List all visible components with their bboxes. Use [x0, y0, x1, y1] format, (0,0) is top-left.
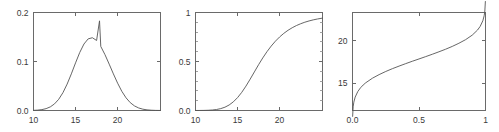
pdf-y-ticks [34, 13, 161, 111]
y-tick-label: 0.5 [179, 57, 191, 67]
x-tick-label: 10 [191, 115, 201, 125]
cdf-y-ticks [196, 13, 323, 111]
panel-cdf: 101520 0.00.51 [166, 0, 332, 132]
quantile-y-ticks [353, 41, 486, 84]
y-tick-label: 0.2 [17, 8, 29, 18]
cdf-y-ticklabels: 0.00.51 [179, 8, 191, 116]
x-tick-label: 0.0 [347, 115, 359, 125]
quantile-x-ticks [353, 13, 486, 111]
pdf-x-ticklabels: 101520 [29, 115, 123, 125]
cdf-y-minor-ticks [196, 22, 323, 100]
cdf-curve [196, 18, 323, 110]
y-tick-label: 1 [186, 8, 191, 18]
y-tick-label: 20 [338, 36, 348, 46]
y-tick-label: 0.0 [17, 106, 29, 116]
pdf-y-ticklabels: 0.00.10.2 [17, 8, 29, 116]
quantile-y-ticklabels: 1520 [338, 36, 348, 89]
x-tick-label: 1 [483, 115, 488, 125]
x-tick-label: 15 [71, 115, 81, 125]
quantile-x-ticklabels: 0.00.51 [347, 115, 489, 125]
x-tick-label: 10 [29, 115, 39, 125]
x-tick-label: 20 [275, 115, 285, 125]
y-tick-label: 0.0 [179, 106, 191, 116]
pdf-plot-svg: 101520 0.00.10.2 [0, 0, 166, 132]
x-tick-label: 20 [113, 115, 123, 125]
quantile-plot-svg: 0.00.51 1520 [332, 0, 499, 132]
cdf-x-ticks [196, 13, 280, 111]
y-tick-label: 0.1 [17, 57, 29, 67]
cdf-axes-frame [196, 13, 323, 111]
pdf-curve [34, 21, 161, 111]
y-tick-label: 15 [338, 78, 348, 88]
quantile-curve [353, 2, 486, 117]
pdf-x-ticks [34, 13, 118, 111]
panel-pdf: 101520 0.00.10.2 [0, 0, 166, 132]
panel-quantile: 0.00.51 1520 [332, 0, 499, 132]
x-tick-label: 0.5 [413, 115, 425, 125]
cdf-plot-svg: 101520 0.00.51 [166, 0, 332, 132]
figure-canvas: 101520 0.00.10.2 101520 0.00.51 0.00.51 … [0, 0, 499, 132]
x-tick-label: 15 [233, 115, 243, 125]
quantile-axes-frame [353, 13, 486, 111]
pdf-axes-frame [34, 13, 161, 111]
cdf-x-ticklabels: 101520 [191, 115, 285, 125]
